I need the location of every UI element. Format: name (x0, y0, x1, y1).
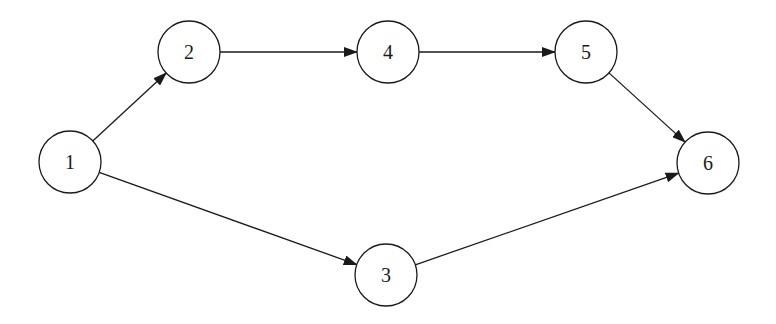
node-label: 4 (383, 41, 393, 63)
edge-1-to-3 (99, 172, 357, 264)
node-4: 4 (357, 21, 419, 83)
node-6: 6 (677, 132, 739, 194)
edge-5-to-6 (609, 73, 685, 142)
edge-1-to-2 (93, 73, 166, 141)
node-label: 6 (703, 152, 713, 174)
node-label: 3 (381, 264, 391, 286)
diagram-svg: 123456 (0, 0, 776, 324)
node-2: 2 (158, 21, 220, 83)
edge-3-to-6 (415, 173, 678, 265)
node-5: 5 (555, 21, 617, 83)
edges-layer (93, 52, 685, 265)
nodes-layer: 123456 (39, 21, 739, 306)
node-label: 5 (581, 41, 591, 63)
node-label: 1 (65, 151, 75, 173)
node-3: 3 (355, 244, 417, 306)
node-1: 1 (39, 131, 101, 193)
network-diagram: 123456 (0, 0, 776, 324)
node-label: 2 (184, 41, 194, 63)
